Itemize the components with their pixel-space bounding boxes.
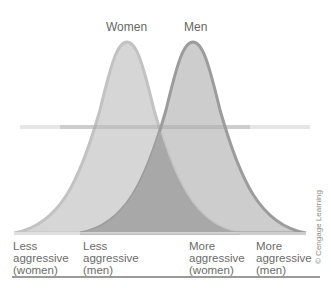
tick-line: More [189,240,245,252]
tick-less-aggressive-men: Less aggressive (men) [83,240,139,276]
tick-line: aggressive [83,252,139,264]
tick-more-aggressive-women: More aggressive (women) [189,240,245,276]
tick-line: (women) [189,264,245,276]
tick-more-aggressive-men: More aggressive (men) [256,240,312,276]
tick-line: (men) [83,264,139,276]
tick-line: aggressive [256,252,312,264]
tick-line: Less [83,240,139,252]
tick-line: More [256,240,312,252]
tick-line: aggressive [13,252,69,264]
tick-line: aggressive [189,252,245,264]
band-overlay [60,125,250,129]
tick-less-aggressive-women: Less aggressive (women) [13,240,69,276]
men-label: Men [184,20,207,34]
bottom-rule [12,276,320,278]
tick-line: (men) [256,264,312,276]
tick-line: Less [13,240,69,252]
women-label: Women [106,20,147,34]
tick-line: (women) [13,264,69,276]
copyright-credit: © Cengage Learning [314,190,323,264]
